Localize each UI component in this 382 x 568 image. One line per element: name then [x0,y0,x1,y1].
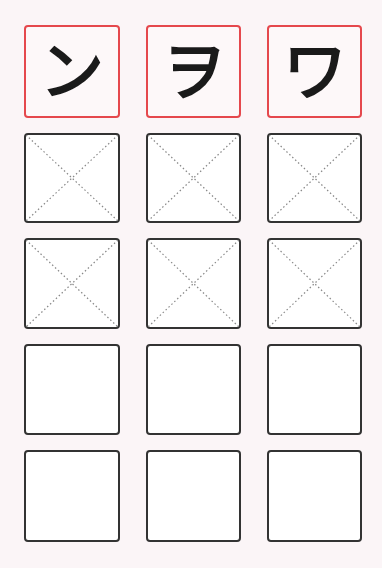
diagonal-guide-icon [26,135,118,221]
blank-box-n-2[interactable] [24,450,120,542]
katakana-practice-sheet: ン ヲ ワ [0,0,382,568]
guided-box-wa-1[interactable] [267,133,362,223]
diagonal-guide-icon [148,240,239,327]
blank-box-wa-1[interactable] [267,344,362,435]
diagonal-guide-icon [269,240,360,327]
katakana-wo-glyph: ヲ [162,40,226,104]
diagonal-guide-icon [269,135,360,221]
guided-box-wo-2[interactable] [146,238,241,329]
blank-box-wa-2[interactable] [267,450,362,542]
diagonal-guide-icon [148,135,239,221]
katakana-n-glyph: ン [40,40,104,104]
model-box-wo: ヲ [146,25,241,118]
blank-box-wo-1[interactable] [146,344,241,435]
blank-box-wo-2[interactable] [146,450,241,542]
guided-box-wa-2[interactable] [267,238,362,329]
diagonal-guide-icon [26,240,118,327]
model-box-n: ン [24,25,120,118]
blank-box-n-1[interactable] [24,344,120,435]
guided-box-n-1[interactable] [24,133,120,223]
katakana-wa-glyph: ワ [283,40,347,104]
guided-box-wo-1[interactable] [146,133,241,223]
guided-box-n-2[interactable] [24,238,120,329]
model-box-wa: ワ [267,25,362,118]
